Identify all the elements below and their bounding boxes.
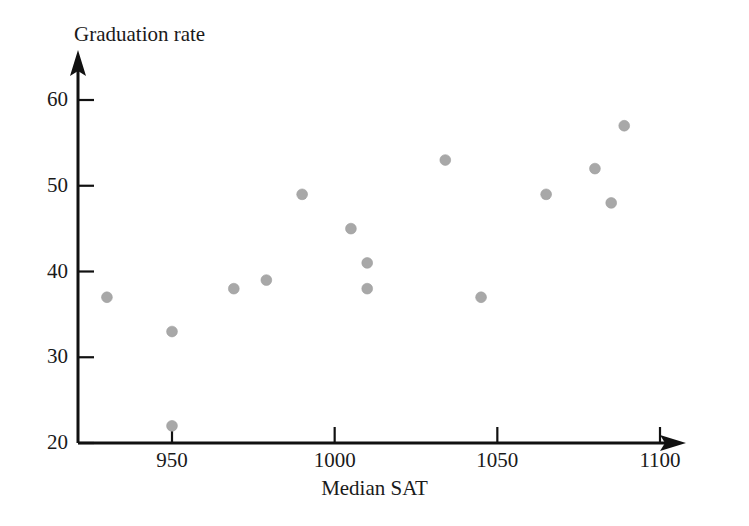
y-tick-label-60: 60 xyxy=(24,89,68,110)
y-axis-ticks xyxy=(78,100,94,443)
y-axis-title: Graduation rate xyxy=(74,24,205,45)
y-tick-label-40: 40 xyxy=(24,261,68,282)
x-tick-label-1000: 1000 xyxy=(295,450,375,471)
data-point xyxy=(606,198,617,209)
data-point xyxy=(619,120,630,131)
x-tick-label-950: 950 xyxy=(132,450,212,471)
x-axis-title: Median SAT xyxy=(0,478,749,499)
y-tick-label-30: 30 xyxy=(24,346,68,367)
x-axis-ticks xyxy=(172,427,660,443)
data-point xyxy=(297,189,308,200)
data-point xyxy=(167,326,178,337)
data-point xyxy=(167,420,178,431)
data-points-group xyxy=(102,120,630,431)
data-point xyxy=(228,283,239,294)
y-tick-label-50: 50 xyxy=(24,175,68,196)
x-tick-label-1050: 1050 xyxy=(457,450,537,471)
data-point xyxy=(590,163,601,174)
data-point xyxy=(541,189,552,200)
x-tick-label-1100: 1100 xyxy=(620,450,700,471)
data-point xyxy=(102,292,113,303)
plot-canvas xyxy=(0,0,749,526)
scatter-plot-figure: Graduation rate Median SAT 2030405060 95… xyxy=(0,0,749,526)
data-point xyxy=(440,155,451,166)
data-point xyxy=(346,223,357,234)
y-tick-label-20: 20 xyxy=(24,432,68,453)
data-point xyxy=(362,258,373,269)
data-point xyxy=(261,275,272,286)
data-point xyxy=(362,283,373,294)
data-point xyxy=(476,292,487,303)
